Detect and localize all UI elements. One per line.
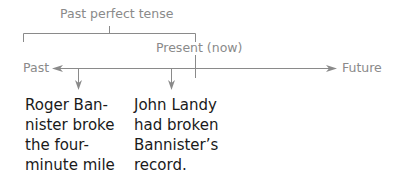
text-line: John Landy bbox=[134, 95, 218, 115]
past-label: Past bbox=[23, 60, 49, 75]
text-line: minute mile bbox=[25, 155, 115, 175]
text-line: the four- bbox=[25, 135, 115, 155]
timeline-axis bbox=[58, 55, 330, 78]
present-label: Present (now) bbox=[156, 40, 242, 55]
text-line: Roger Ban- bbox=[25, 95, 115, 115]
event-text-2: John Landy had broken Bannister’s record… bbox=[134, 95, 218, 175]
text-line: record. bbox=[134, 155, 218, 175]
future-label: Future bbox=[342, 60, 382, 75]
text-line: nister broke bbox=[25, 115, 115, 135]
text-line: had broken bbox=[134, 115, 218, 135]
event-arrow-2 bbox=[168, 69, 175, 91]
event-arrow-1 bbox=[75, 69, 82, 91]
event-text-1: Roger Ban- nister broke the four- minute… bbox=[25, 95, 115, 175]
text-line: Bannister’s bbox=[134, 135, 218, 155]
bracket-label: Past perfect tense bbox=[60, 6, 173, 21]
